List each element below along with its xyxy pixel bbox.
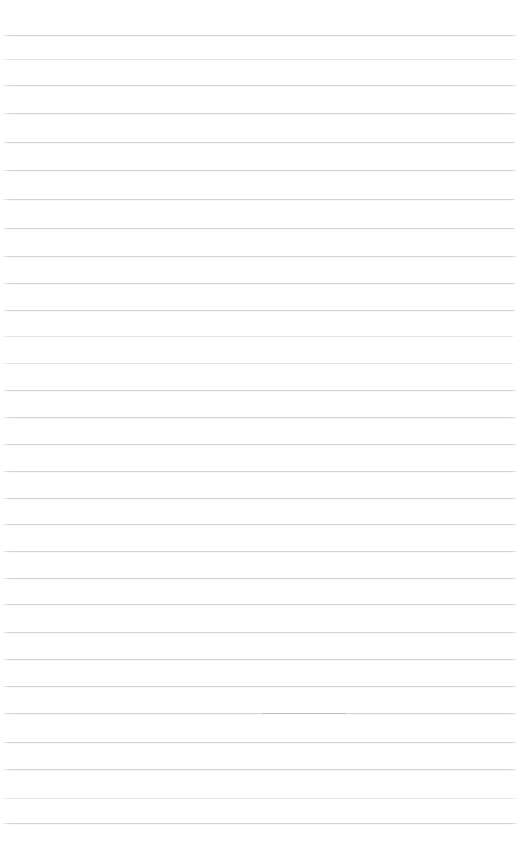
rule-line: [2, 199, 515, 200]
rule-line: [3, 228, 515, 229]
rule-line: [2, 283, 515, 284]
rule-line: [2, 170, 516, 171]
rule-line: [2, 742, 516, 743]
rule-line: [2, 498, 516, 499]
rule-line: [3, 713, 516, 714]
rule-line: [2, 113, 516, 114]
rule-line: [2, 85, 516, 86]
rule-line: [2, 659, 516, 660]
rule-line: [2, 417, 516, 418]
rule-line: [3, 798, 516, 799]
lined-paper-sheet: [0, 0, 520, 867]
rule-line: [2, 604, 516, 605]
rule-line: [2, 686, 516, 687]
rule-line: [3, 142, 515, 143]
rule-line: [3, 390, 516, 391]
rule-line: [2, 35, 516, 36]
rule-line: [2, 444, 516, 445]
rule-line: [3, 471, 516, 472]
rule-overdraw-mark: [262, 713, 346, 714]
left-edge-fade: [0, 0, 10, 867]
rule-line: [3, 310, 515, 311]
rule-line: [3, 551, 516, 552]
rule-line: [2, 524, 516, 525]
rule-line: [3, 59, 516, 60]
right-edge-fade: [510, 0, 520, 867]
rule-line: [2, 256, 516, 257]
rule-line: [2, 578, 516, 579]
rule-line: [2, 823, 518, 824]
rule-line: [3, 632, 516, 633]
rule-line: [2, 363, 513, 364]
rule-line: [2, 336, 513, 337]
rule-line: [2, 769, 516, 770]
